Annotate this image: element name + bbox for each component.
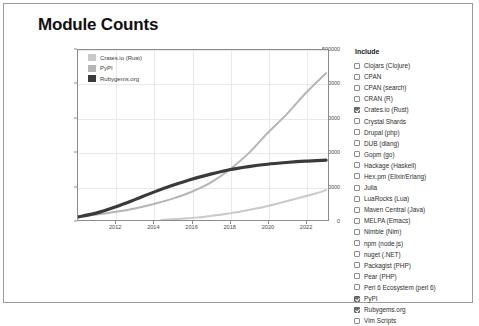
include-item-label: CRAN (R) [364, 95, 393, 102]
series-line [78, 73, 326, 216]
include-item-label: npm (node.js) [364, 240, 403, 247]
checkbox-unchecked-icon[interactable] [354, 129, 360, 135]
checkbox-unchecked-icon[interactable] [354, 118, 360, 124]
page-title: Module Counts [38, 15, 158, 35]
include-item-12[interactable]: LuaRocks (Lua) [354, 193, 466, 204]
include-item-5[interactable]: Crystal Shards [354, 115, 466, 126]
checkbox-unchecked-icon[interactable] [354, 251, 360, 257]
checkbox-checked-icon[interactable] [354, 296, 360, 302]
include-item-label: Perl 6 Ecosystem (perl 6) [364, 284, 436, 291]
legend-label: Rubygems.org [100, 76, 139, 82]
x-tick-label: 2016 [185, 224, 197, 230]
checkbox-unchecked-icon[interactable] [354, 207, 360, 213]
x-tick-label: 2014 [147, 224, 159, 230]
include-item-2[interactable]: CPAN (search) [354, 82, 466, 93]
include-item-7[interactable]: DUB (dlang) [354, 138, 466, 149]
legend-swatch-icon [88, 75, 96, 82]
include-item-label: LuaRocks (Lua) [364, 195, 409, 202]
include-item-label: Drupal (php) [364, 129, 400, 136]
checkbox-unchecked-icon[interactable] [354, 151, 360, 157]
legend-swatch-icon [88, 54, 96, 61]
x-tick-mark [230, 221, 231, 224]
include-item-21[interactable]: PyPI [354, 293, 466, 304]
checkbox-unchecked-icon[interactable] [354, 162, 360, 168]
include-item-6[interactable]: Drupal (php) [354, 127, 466, 138]
include-item-13[interactable]: Maven Central (Java) [354, 204, 466, 215]
include-item-8[interactable]: Gopm (go) [354, 149, 466, 160]
include-item-label: MELPA (Emacs) [364, 217, 410, 224]
x-tick-mark [115, 221, 116, 224]
checkbox-unchecked-icon[interactable] [354, 140, 360, 146]
include-item-14[interactable]: MELPA (Emacs) [354, 215, 466, 226]
x-tick-mark [268, 221, 269, 224]
x-tick-mark [306, 221, 307, 224]
include-item-22[interactable]: Rubygems.org [354, 304, 466, 315]
include-item-15[interactable]: Nimble (Nim) [354, 226, 466, 237]
include-heading: Include [354, 48, 466, 55]
legend-item: PyPI [88, 65, 142, 72]
checkbox-unchecked-icon[interactable] [354, 63, 360, 69]
include-item-label: Nimble (Nim) [364, 228, 401, 235]
checkbox-unchecked-icon[interactable] [354, 229, 360, 235]
include-item-label: DUB (dlang) [364, 140, 399, 147]
include-item-11[interactable]: Julia [354, 182, 466, 193]
x-tick-mark [192, 221, 193, 224]
include-item-20[interactable]: Perl 6 Ecosystem (perl 6) [354, 282, 466, 293]
include-item-10[interactable]: Hex.pm (Elixir/Erlang) [354, 171, 466, 182]
include-item-label: Gopm (go) [364, 151, 395, 158]
include-item-label: CPAN (search) [364, 84, 407, 91]
checkbox-unchecked-icon[interactable] [354, 273, 360, 279]
include-item-19[interactable]: Pear (PHP) [354, 271, 466, 282]
checkbox-unchecked-icon[interactable] [354, 262, 360, 268]
include-item-label: Vim Scripts [364, 317, 396, 324]
checkbox-unchecked-icon[interactable] [354, 74, 360, 80]
legend-swatch-icon [88, 65, 96, 72]
include-item-4[interactable]: Crates.io (Rust) [354, 104, 466, 115]
legend-item: Crates.io (Rust) [88, 54, 142, 61]
x-tick-label: 2020 [262, 224, 274, 230]
include-item-label: Rubygems.org [364, 306, 406, 313]
include-item-label: Packagist (PHP) [364, 262, 411, 269]
include-item-label: Crystal Shards [364, 118, 406, 125]
include-item-17[interactable]: nuget (.NET) [354, 249, 466, 260]
checkbox-unchecked-icon[interactable] [354, 240, 360, 246]
checkbox-unchecked-icon[interactable] [354, 318, 360, 324]
include-item-label: Hex.pm (Elixir/Erlang) [364, 173, 426, 180]
x-tick-label: 2012 [109, 224, 121, 230]
legend-item: Rubygems.org [88, 75, 142, 82]
include-item-label: Julia [364, 184, 377, 191]
checkbox-unchecked-icon[interactable] [354, 173, 360, 179]
series-line [78, 160, 326, 217]
include-item-label: CPAN [364, 73, 381, 80]
x-tick-label: 2022 [300, 224, 312, 230]
include-item-9[interactable]: Hackage (Haskell) [354, 160, 466, 171]
include-item-16[interactable]: npm (node.js) [354, 238, 466, 249]
include-item-23[interactable]: Vim Scripts [354, 315, 466, 326]
include-item-3[interactable]: CRAN (R) [354, 93, 466, 104]
include-item-label: Pear (PHP) [364, 273, 397, 280]
x-tick-label: 2018 [223, 224, 235, 230]
checkbox-unchecked-icon[interactable] [354, 85, 360, 91]
checkbox-unchecked-icon[interactable] [354, 96, 360, 102]
include-checkbox-list[interactable]: Clojars (Clojure)CPANCPAN (search)CRAN (… [354, 60, 466, 326]
legend-label: Crates.io (Rust) [100, 55, 142, 61]
checkbox-unchecked-icon[interactable] [354, 218, 360, 224]
checkbox-checked-icon[interactable] [354, 307, 360, 313]
x-tick-mark [153, 221, 154, 224]
checkbox-checked-icon[interactable] [354, 107, 360, 113]
app-window: Module Counts 01000002000003000004000005… [3, 3, 473, 303]
include-item-label: Hackage (Haskell) [364, 162, 416, 169]
include-item-label: Clojars (Clojure) [364, 62, 410, 69]
checkbox-unchecked-icon[interactable] [354, 185, 360, 191]
include-item-0[interactable]: Clojars (Clojure) [354, 60, 466, 71]
checkbox-unchecked-icon[interactable] [354, 284, 360, 290]
include-item-1[interactable]: CPAN [354, 71, 466, 82]
include-panel: Include Clojars (Clojure)CPANCPAN (searc… [354, 48, 466, 326]
include-item-18[interactable]: Packagist (PHP) [354, 260, 466, 271]
include-item-label: nuget (.NET) [364, 251, 401, 258]
legend-label: PyPI [100, 65, 113, 71]
module-counts-chart: 0100000200000300000400000500000 20122014… [42, 44, 340, 229]
include-item-label: Maven Central (Java) [364, 206, 425, 213]
chart-legend: Crates.io (Rust)PyPIRubygems.org [88, 54, 142, 82]
checkbox-unchecked-icon[interactable] [354, 196, 360, 202]
